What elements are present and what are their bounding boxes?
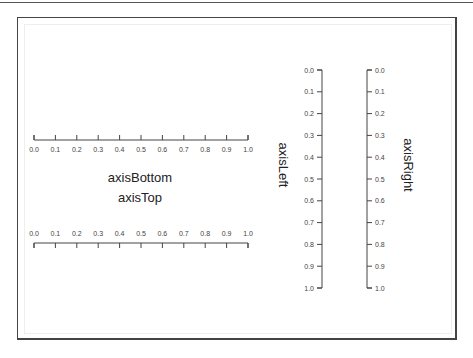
tick-label: 0.0 bbox=[29, 230, 39, 237]
tick-label: 1.0 bbox=[375, 285, 385, 292]
tick-label: 0.7 bbox=[304, 219, 314, 226]
tick-label: 0.1 bbox=[51, 146, 61, 153]
tick-label: 0.2 bbox=[72, 146, 82, 153]
tick-label: 0.0 bbox=[375, 67, 385, 74]
tick-label: 0.6 bbox=[304, 197, 314, 204]
axis-top: 0.00.10.20.30.40.50.60.70.80.91.0 bbox=[29, 230, 253, 248]
axis-left-title: axisLeft bbox=[276, 143, 291, 188]
tick-label: 0.0 bbox=[304, 67, 314, 74]
tick-label: 0.8 bbox=[200, 230, 210, 237]
tick-label: 0.7 bbox=[375, 219, 385, 226]
tick-label: 0.8 bbox=[375, 241, 385, 248]
tick-label: 0.7 bbox=[179, 230, 189, 237]
axis-right: 0.00.10.20.30.40.50.60.70.80.91.0 bbox=[367, 67, 385, 292]
tick-label: 0.9 bbox=[304, 263, 314, 270]
axis-bottom: 0.00.10.20.30.40.50.60.70.80.91.0 bbox=[29, 135, 253, 153]
tick-label: 1.0 bbox=[243, 146, 253, 153]
tick-label: 0.5 bbox=[375, 176, 385, 183]
tick-label: 0.3 bbox=[304, 132, 314, 139]
axis-right-title: axisRight bbox=[401, 138, 416, 192]
axis-left: 0.00.10.20.30.40.50.60.70.80.91.0 bbox=[304, 67, 322, 292]
tick-label: 0.1 bbox=[51, 230, 61, 237]
tick-label: 0.0 bbox=[29, 146, 39, 153]
tick-label: 0.9 bbox=[222, 146, 232, 153]
axes-canvas: 0.00.10.20.30.40.50.60.70.80.91.0 axisBo… bbox=[0, 0, 473, 358]
tick-label: 0.8 bbox=[200, 146, 210, 153]
tick-label: 1.0 bbox=[243, 230, 253, 237]
tick-label: 0.3 bbox=[93, 230, 103, 237]
tick-label: 0.2 bbox=[375, 110, 385, 117]
tick-label: 0.4 bbox=[115, 230, 125, 237]
tick-label: 0.5 bbox=[304, 176, 314, 183]
tick-label: 0.4 bbox=[304, 154, 314, 161]
tick-label: 0.2 bbox=[304, 110, 314, 117]
tick-label: 1.0 bbox=[304, 285, 314, 292]
tick-label: 0.5 bbox=[136, 230, 146, 237]
axis-top-title: axisTop bbox=[118, 190, 162, 205]
tick-label: 0.6 bbox=[158, 230, 168, 237]
tick-label: 0.9 bbox=[222, 230, 232, 237]
tick-label: 0.9 bbox=[375, 263, 385, 270]
axis-bottom-title: axisBottom bbox=[108, 170, 172, 185]
tick-label: 0.3 bbox=[93, 146, 103, 153]
tick-label: 0.1 bbox=[304, 88, 314, 95]
tick-label: 0.7 bbox=[179, 146, 189, 153]
tick-label: 0.1 bbox=[375, 88, 385, 95]
tick-label: 0.4 bbox=[375, 154, 385, 161]
tick-label: 0.8 bbox=[304, 241, 314, 248]
tick-label: 0.6 bbox=[158, 146, 168, 153]
tick-label: 0.6 bbox=[375, 197, 385, 204]
tick-label: 0.3 bbox=[375, 132, 385, 139]
tick-label: 0.5 bbox=[136, 146, 146, 153]
tick-label: 0.2 bbox=[72, 230, 82, 237]
tick-label: 0.4 bbox=[115, 146, 125, 153]
